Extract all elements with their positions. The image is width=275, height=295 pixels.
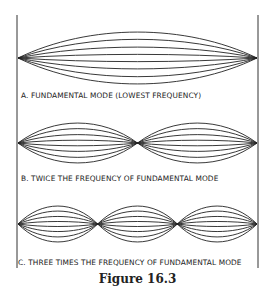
caption-b: B. TWICE THE FREQUENCY OF FUNDAMENTAL MO… <box>21 174 218 183</box>
wave-curve <box>18 216 257 231</box>
caption-a: A. FUNDAMENTAL MODE (LOWEST FREQUENCY) <box>21 91 201 100</box>
caption-c: C. THREE TIMES THE FREQUENCY OF FUNDAMEN… <box>18 258 242 267</box>
wave-curve <box>18 58 257 62</box>
wave-curve <box>18 221 257 226</box>
wave-curve <box>18 54 257 58</box>
standing-wave-diagram <box>0 0 275 295</box>
wave-curve <box>18 216 257 231</box>
wave-curve <box>18 211 257 237</box>
wave-curve <box>18 123 257 163</box>
wave-curve <box>18 39 257 58</box>
wave-curve <box>18 211 257 237</box>
figure-label: Figure 16.3 <box>0 272 275 286</box>
wave-curve <box>18 221 257 226</box>
wave-curve <box>18 58 257 77</box>
